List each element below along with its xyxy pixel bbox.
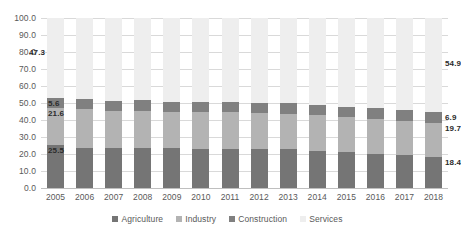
bar-segment-construction[interactable] [396, 110, 413, 121]
bar-group-2009[interactable] [157, 18, 186, 188]
bar-segment-agriculture[interactable] [338, 152, 355, 188]
bar-segment-services[interactable] [309, 18, 326, 105]
bar-segment-agriculture[interactable] [163, 148, 180, 188]
bars-layer: 47.35.621.625.554.96.919.718.4 [41, 18, 448, 188]
bar-group-2005[interactable]: 47.35.621.625.5 [41, 18, 70, 188]
bar-segment-industry[interactable] [251, 113, 268, 149]
bar-group-2007[interactable] [99, 18, 128, 188]
bar-segment-construction[interactable] [280, 103, 297, 114]
x-axis-tick-label-2010: 2010 [186, 192, 215, 202]
y-axis-tick-label: 60.0 [19, 81, 36, 91]
bar-group-2014[interactable] [303, 18, 332, 188]
bar-segment-construction[interactable] [76, 99, 93, 110]
bar-segment-services[interactable] [192, 18, 209, 101]
bar-segment-agriculture[interactable] [309, 151, 326, 188]
bar-group-2008[interactable] [128, 18, 157, 188]
bar-segment-agriculture[interactable] [222, 149, 239, 188]
bar-segment-industry[interactable] [396, 121, 413, 155]
bar-segment-industry[interactable] [192, 112, 209, 149]
bar-segment-agriculture[interactable] [134, 148, 151, 188]
legend-item-agriculture[interactable]: Agriculture [112, 214, 163, 224]
bar-group-2015[interactable] [332, 18, 361, 188]
x-axis-tick-label-2016: 2016 [361, 192, 390, 202]
bar-segment-industry[interactable] [309, 115, 326, 151]
bar-segment-construction[interactable] [134, 100, 151, 110]
bar-segment-services[interactable] [134, 18, 151, 100]
bar-segment-services[interactable] [222, 18, 239, 102]
bar-segment-services[interactable] [280, 18, 297, 103]
bar-segment-services[interactable] [396, 18, 413, 110]
data-label-industry-2018: 19.7 [445, 124, 461, 133]
bar-segment-construction[interactable] [222, 102, 239, 112]
legend-swatch-icon [300, 216, 306, 222]
bar-segment-agriculture[interactable] [280, 149, 297, 188]
bar-segment-services[interactable]: 54.9 [425, 18, 442, 111]
bar-stack [309, 18, 326, 188]
bar-segment-industry[interactable] [163, 112, 180, 149]
data-label-industry-2005: 21.6 [48, 109, 64, 118]
bar-stack [222, 18, 239, 188]
bar-segment-services[interactable]: 47.3 [47, 18, 64, 98]
bar-group-2010[interactable] [186, 18, 215, 188]
bar-segment-industry[interactable] [280, 114, 297, 149]
bar-segment-agriculture[interactable] [367, 154, 384, 189]
bar-group-2006[interactable] [70, 18, 99, 188]
bar-segment-services[interactable] [367, 18, 384, 108]
bar-stack [251, 18, 268, 188]
bar-segment-industry[interactable] [134, 111, 151, 148]
x-axis-tick-label-2014: 2014 [303, 192, 332, 202]
bar-segment-agriculture[interactable] [396, 155, 413, 188]
legend-item-construction[interactable]: Construction [229, 214, 287, 224]
bar-segment-construction[interactable] [338, 107, 355, 117]
legend-item-industry[interactable]: Industry [176, 214, 216, 224]
x-axis-tick-label-2005: 2005 [41, 192, 70, 202]
y-axis-tick-label: 90.0 [19, 30, 36, 40]
bar-segment-industry[interactable] [338, 117, 355, 152]
y-axis: 100.090.080.070.060.050.040.030.020.010.… [0, 18, 36, 188]
bar-group-2011[interactable] [215, 18, 244, 188]
chart-legend: AgricultureIndustryConstructionServices [0, 214, 455, 224]
bar-segment-agriculture[interactable]: 25.5 [47, 145, 64, 188]
bar-segment-services[interactable] [251, 18, 268, 102]
x-axis-tick-label-2018: 2018 [419, 192, 448, 202]
bar-segment-construction[interactable] [105, 101, 122, 111]
legend-item-services[interactable]: Services [300, 214, 342, 224]
bar-segment-industry[interactable] [105, 111, 122, 148]
bar-segment-services[interactable] [76, 18, 93, 99]
bar-group-2017[interactable] [390, 18, 419, 188]
bar-segment-services[interactable] [338, 18, 355, 107]
data-label-agriculture-2018: 18.4 [445, 158, 461, 167]
bar-segment-services[interactable] [105, 18, 122, 101]
bar-segment-construction[interactable]: 5.6 [47, 98, 64, 108]
y-axis-tick-label: 30.0 [19, 132, 36, 142]
bar-segment-construction[interactable] [309, 105, 326, 116]
bar-group-2018[interactable]: 54.96.919.718.4 [419, 18, 448, 188]
bar-segment-construction[interactable] [163, 102, 180, 112]
bar-segment-agriculture[interactable] [76, 148, 93, 188]
plot-area: 47.35.621.625.554.96.919.718.4 [41, 18, 448, 188]
bar-segment-agriculture[interactable] [251, 149, 268, 188]
bar-segment-construction[interactable]: 6.9 [425, 112, 442, 124]
x-axis-tick-label-2017: 2017 [390, 192, 419, 202]
bar-group-2016[interactable] [361, 18, 390, 188]
bar-group-2012[interactable] [245, 18, 274, 188]
data-label-construction-2018: 6.9 [445, 113, 456, 122]
bar-segment-construction[interactable] [367, 108, 384, 119]
bar-segment-agriculture[interactable]: 18.4 [425, 157, 442, 188]
bar-segment-industry[interactable]: 19.7 [425, 123, 442, 156]
bar-segment-industry[interactable] [76, 109, 93, 147]
bar-segment-services[interactable] [163, 18, 180, 102]
bar-group-2013[interactable] [274, 18, 303, 188]
bar-segment-industry[interactable]: 21.6 [47, 108, 64, 145]
data-label-services-2005: 47.3 [29, 47, 45, 56]
bar-segment-industry[interactable] [367, 119, 384, 153]
bar-segment-industry[interactable] [222, 112, 239, 149]
legend-label: Services [309, 214, 342, 224]
bar-segment-construction[interactable] [192, 102, 209, 112]
bar-segment-construction[interactable] [251, 103, 268, 114]
bar-segment-agriculture[interactable] [105, 148, 122, 188]
y-axis-tick-label: 0.0 [24, 183, 36, 193]
x-axis-tick-label-2012: 2012 [245, 192, 274, 202]
bar-segment-agriculture[interactable] [192, 149, 209, 188]
